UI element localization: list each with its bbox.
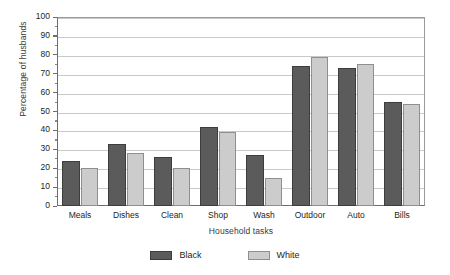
bar-clean-white[interactable] bbox=[173, 168, 191, 206]
bar-group bbox=[195, 17, 241, 206]
bar-group bbox=[103, 17, 149, 206]
bar-group bbox=[287, 17, 333, 206]
bar-group bbox=[379, 17, 425, 206]
bar-group bbox=[57, 17, 103, 206]
y-axis-tick-label: 90 bbox=[41, 30, 50, 41]
x-axis-tick-label: Meals bbox=[57, 209, 103, 221]
x-axis-tick-label: Auto bbox=[333, 209, 379, 221]
bar-outdoor-white[interactable] bbox=[311, 57, 329, 206]
legend-label-white: White bbox=[277, 250, 300, 260]
legend-item-black[interactable]: Black bbox=[150, 250, 201, 260]
bar-wash-black[interactable] bbox=[246, 155, 264, 206]
y-axis-tick-label: 30 bbox=[41, 143, 50, 154]
bar-shop-white[interactable] bbox=[219, 132, 237, 206]
x-axis-tick-label: Bills bbox=[379, 209, 425, 221]
x-axis-tick-label: Outdoor bbox=[287, 209, 333, 221]
bar-shop-black[interactable] bbox=[200, 127, 218, 206]
bar-bills-black[interactable] bbox=[384, 102, 402, 206]
y-axis-tick-label: 50 bbox=[41, 106, 50, 117]
bar-group bbox=[149, 17, 195, 206]
bar-auto-white[interactable] bbox=[357, 64, 375, 206]
bar-outdoor-black[interactable] bbox=[292, 66, 310, 206]
bar-auto-black[interactable] bbox=[338, 68, 356, 206]
bar-dishes-white[interactable] bbox=[127, 153, 145, 206]
legend-swatch-white bbox=[248, 251, 270, 260]
bars-layer bbox=[57, 17, 425, 206]
x-axis-title: Household tasks bbox=[57, 226, 425, 236]
y-axis-tick-label: 20 bbox=[41, 162, 50, 173]
chart-legend: Black White bbox=[0, 250, 450, 260]
x-axis-tick-labels: MealsDishesCleanShopWashOutdoorAutoBills bbox=[57, 209, 425, 223]
x-axis-tick-label: Dishes bbox=[103, 209, 149, 221]
y-axis-tick-label: 60 bbox=[41, 87, 50, 98]
bar-chart: Percentage of husbands 01020304050607080… bbox=[0, 0, 450, 275]
bar-meals-white[interactable] bbox=[81, 168, 99, 206]
y-axis-tick-label: 70 bbox=[41, 68, 50, 79]
x-axis-tick-label: Shop bbox=[195, 209, 241, 221]
y-axis-tick-label: 40 bbox=[41, 124, 50, 135]
bar-group bbox=[241, 17, 287, 206]
x-axis-tick-label: Wash bbox=[241, 209, 287, 221]
bar-clean-black[interactable] bbox=[154, 157, 172, 206]
legend-swatch-black bbox=[150, 251, 172, 260]
legend-label-black: Black bbox=[179, 250, 201, 260]
bar-group bbox=[333, 17, 379, 206]
bar-meals-black[interactable] bbox=[62, 161, 80, 206]
y-axis-tick-label: 0 bbox=[45, 200, 50, 211]
bar-wash-white[interactable] bbox=[265, 178, 283, 206]
x-axis-tick-label: Clean bbox=[149, 209, 195, 221]
y-axis-tick-label: 10 bbox=[41, 181, 50, 192]
y-axis-tick-label: 100 bbox=[36, 11, 50, 22]
bar-bills-white[interactable] bbox=[403, 104, 421, 206]
y-axis-tick-label: 80 bbox=[41, 49, 50, 60]
legend-item-white[interactable]: White bbox=[248, 250, 300, 260]
bar-dishes-black[interactable] bbox=[108, 144, 126, 206]
y-axis-ticks: 0102030405060708090100 bbox=[0, 0, 57, 275]
